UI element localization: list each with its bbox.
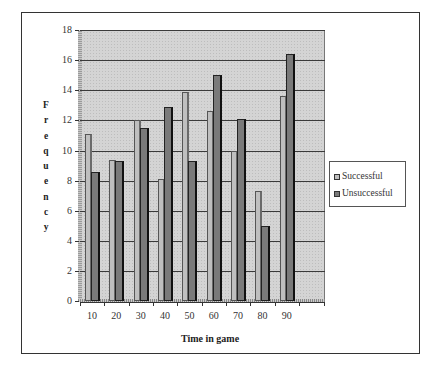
y-title-letter: e xyxy=(41,174,51,189)
x-tick xyxy=(299,302,300,306)
bar-unsuccessful-80 xyxy=(261,226,270,301)
y-axis-title: Frequency xyxy=(41,98,51,236)
y-tick-label: 10 xyxy=(50,146,72,156)
y-tick xyxy=(75,30,79,31)
x-tick xyxy=(250,302,251,306)
y-tick xyxy=(75,271,79,272)
legend-label: Successful xyxy=(342,171,383,181)
plot-side-wall xyxy=(78,30,82,302)
gridline xyxy=(80,30,325,31)
x-tick-label: 10 xyxy=(80,310,104,321)
x-tick-label: 20 xyxy=(104,310,128,321)
y-tick xyxy=(75,301,79,302)
y-tick xyxy=(75,90,79,91)
legend: Successful Unsuccessful xyxy=(329,161,406,207)
bar-unsuccessful-10 xyxy=(91,172,100,301)
x-tick-label: 70 xyxy=(226,310,250,321)
bar-unsuccessful-60 xyxy=(213,75,222,301)
y-tick-label: 0 xyxy=(50,296,72,306)
x-tick xyxy=(275,302,276,306)
y-title-letter: c xyxy=(41,205,51,220)
bar-unsuccessful-30 xyxy=(140,128,149,301)
x-tick xyxy=(177,302,178,306)
y-tick xyxy=(75,211,79,212)
x-tick-label: 90 xyxy=(275,310,299,321)
legend-swatch-successful xyxy=(334,174,340,180)
legend-item-unsuccessful: Unsuccessful xyxy=(334,188,393,198)
y-title-letter: e xyxy=(41,129,51,144)
bar-unsuccessful-20 xyxy=(115,161,124,301)
x-tick xyxy=(324,302,325,306)
y-tick xyxy=(75,60,79,61)
x-tick xyxy=(202,302,203,306)
bar-unsuccessful-50 xyxy=(188,161,197,301)
x-tick-label: 50 xyxy=(177,310,201,321)
legend-item-successful: Successful xyxy=(334,171,383,181)
y-tick xyxy=(75,181,79,182)
x-axis-title: Time in game xyxy=(160,333,260,344)
x-tick-label: 60 xyxy=(202,310,226,321)
y-tick-label: 18 xyxy=(50,25,72,35)
y-tick xyxy=(75,151,79,152)
y-tick-label: 8 xyxy=(50,176,72,186)
y-title-letter: u xyxy=(41,159,51,174)
x-tick-label: 40 xyxy=(153,310,177,321)
y-tick xyxy=(75,120,79,121)
y-title-letter: r xyxy=(41,113,51,128)
x-tick xyxy=(226,302,227,306)
legend-label: Unsuccessful xyxy=(342,188,393,198)
y-title-letter: F xyxy=(41,98,51,113)
y-tick-label: 4 xyxy=(50,236,72,246)
legend-swatch-unsuccessful xyxy=(334,191,340,197)
y-tick-label: 16 xyxy=(50,55,72,65)
y-tick-label: 12 xyxy=(50,115,72,125)
bar-unsuccessful-40 xyxy=(164,107,173,301)
y-title-letter: y xyxy=(41,220,51,235)
y-tick xyxy=(75,241,79,242)
y-title-letter: q xyxy=(41,144,51,159)
x-tick xyxy=(129,302,130,306)
bar-unsuccessful-70 xyxy=(237,119,246,301)
y-tick-label: 2 xyxy=(50,266,72,276)
x-tick-label: 30 xyxy=(129,310,153,321)
x-tick xyxy=(153,302,154,306)
x-tick xyxy=(80,302,81,306)
y-tick-label: 14 xyxy=(50,85,72,95)
y-tick-label: 6 xyxy=(50,206,72,216)
x-tick-label: 80 xyxy=(250,310,274,321)
x-tick xyxy=(104,302,105,306)
y-title-letter: n xyxy=(41,190,51,205)
bar-unsuccessful-90 xyxy=(286,54,295,301)
